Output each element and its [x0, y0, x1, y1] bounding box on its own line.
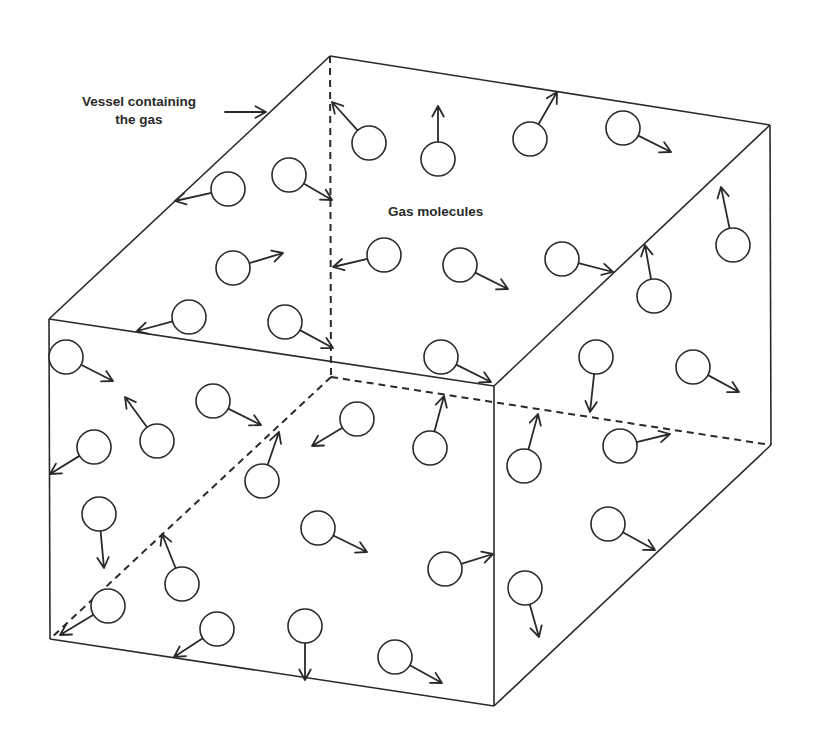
molecule-circle: [421, 142, 455, 176]
gas-molecule: [676, 350, 739, 392]
gas-molecule: [161, 534, 199, 601]
velocity-arrow-icon: [475, 273, 508, 290]
molecule-circle: [272, 158, 306, 192]
molecule-circle: [91, 589, 125, 623]
velocity-arrow-icon: [641, 245, 652, 279]
molecule-circle: [340, 402, 374, 436]
gas-molecule: [603, 429, 670, 463]
gas-molecule: [443, 248, 508, 289]
velocity-arrow-icon: [137, 321, 173, 333]
velocity-arrow-icon: [410, 665, 442, 683]
velocity-arrow-icon: [530, 604, 542, 637]
gas-molecule: [428, 552, 493, 586]
gas-molecule: [507, 414, 541, 483]
gas-molecule: [137, 300, 206, 334]
velocity-arrow-icon: [461, 552, 493, 564]
gas-molecule: [421, 106, 455, 176]
gas-molecule: [245, 432, 281, 498]
molecule-circle: [216, 251, 250, 285]
gas-molecule: [125, 397, 174, 458]
velocity-arrow-icon: [300, 330, 333, 348]
molecule-circle: [367, 238, 401, 272]
molecule-circle: [424, 340, 458, 374]
gas-molecule: [82, 497, 116, 568]
molecule-circle: [301, 511, 335, 545]
molecule-circle: [245, 464, 279, 498]
molecule-circle: [545, 242, 579, 276]
velocity-arrow-icon: [174, 638, 203, 657]
gas-molecule: [424, 340, 491, 382]
vessel-edge: [50, 639, 494, 706]
gas-molecule: [378, 640, 442, 683]
molecule-circle: [49, 340, 83, 374]
velocity-arrow-icon: [299, 643, 311, 680]
gas-molecule: [716, 187, 750, 262]
velocity-arrow-icon: [585, 374, 596, 412]
velocity-arrow-icon: [434, 396, 446, 432]
vessel-label-line2: the gas: [64, 111, 214, 129]
molecule-circle: [413, 431, 447, 465]
molecule-circle: [603, 429, 637, 463]
gas-molecule: [50, 430, 111, 474]
velocity-arrow-icon: [60, 615, 93, 635]
molecule-circle: [591, 507, 625, 541]
vessel-edge: [330, 56, 770, 125]
velocity-arrow-icon: [538, 92, 557, 124]
molecule-circle: [288, 609, 322, 643]
vessel-edge: [770, 125, 771, 445]
molecule-circle: [140, 424, 174, 458]
velocity-arrow-icon: [717, 187, 729, 228]
molecule-circle: [165, 567, 199, 601]
velocity-arrow-icon: [638, 136, 671, 153]
gas-molecule: [508, 571, 542, 637]
velocity-arrow-icon: [528, 414, 540, 450]
velocity-arrow-icon: [333, 259, 367, 270]
velocity-arrow-icon: [623, 532, 655, 550]
velocity-arrow-icon: [125, 397, 147, 427]
gas-molecule: [637, 245, 671, 313]
molecules-label: Gas molecules: [388, 203, 483, 221]
vessel-label: Vessel containing the gas: [64, 93, 214, 129]
gas-molecule: [545, 242, 613, 276]
molecule-circle: [82, 497, 116, 531]
molecule-circle: [196, 384, 230, 418]
molecule-circle: [508, 571, 542, 605]
velocity-arrow-icon: [637, 431, 670, 442]
gas-molecules: [49, 92, 750, 683]
gas-molecule: [216, 251, 283, 285]
gas-molecule: [272, 158, 332, 200]
molecule-circle: [268, 305, 302, 339]
velocity-arrow-icon: [304, 184, 332, 200]
vessel-pointer-arrow-icon: [225, 106, 266, 118]
vessel-edge: [49, 319, 50, 639]
molecule-circle: [428, 552, 462, 586]
vessel-hidden-edges: [50, 56, 771, 639]
molecule-circle: [211, 172, 245, 206]
velocity-arrow-icon: [708, 375, 739, 392]
velocity-arrow-icon: [268, 432, 281, 465]
gas-molecule: [175, 172, 245, 206]
molecule-circle: [352, 126, 386, 160]
molecule-circle: [579, 340, 613, 374]
gas-molecule: [196, 384, 261, 425]
velocity-arrow-icon: [578, 263, 613, 275]
velocity-arrow-icon: [249, 251, 283, 264]
molecule-circle: [378, 640, 412, 674]
gas-molecule: [60, 589, 125, 635]
gas-molecule: [49, 340, 113, 381]
gas-molecule: [312, 402, 374, 446]
molecule-circle: [172, 300, 206, 334]
velocity-arrow-icon: [50, 456, 80, 474]
molecule-circle: [606, 111, 640, 145]
gas-molecule: [268, 305, 333, 348]
vessel-outline: [49, 56, 771, 706]
hidden-edge: [331, 377, 771, 445]
hidden-edge: [330, 56, 331, 377]
gas-molecule: [332, 102, 386, 160]
molecule-circle: [443, 248, 477, 282]
molecule-circle: [716, 228, 750, 262]
vessel-label-line1: Vessel containing: [64, 93, 214, 111]
velocity-arrow-icon: [432, 106, 444, 142]
velocity-arrow-icon: [161, 534, 176, 568]
molecule-circle: [77, 430, 111, 464]
